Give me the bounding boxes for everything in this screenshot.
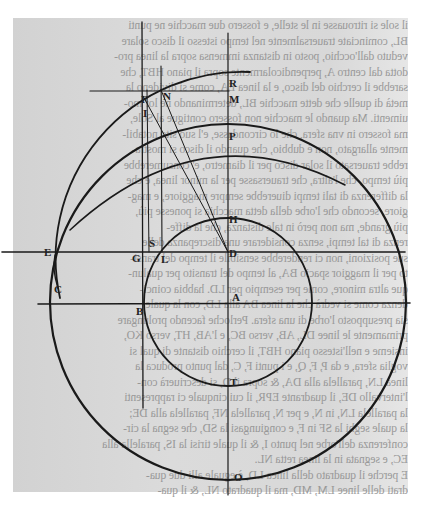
line-nl xyxy=(161,66,162,252)
point-label-f: F xyxy=(141,93,148,105)
line-ca xyxy=(38,303,410,304)
point-label-d: D xyxy=(229,247,237,259)
point-label-h: H xyxy=(229,213,238,225)
point-label-b: B xyxy=(136,305,144,317)
point-label-s: S xyxy=(149,237,155,249)
point-label-a: A xyxy=(232,291,240,303)
line-nd xyxy=(161,90,228,252)
point-label-e: E xyxy=(44,246,51,258)
geometric-diagram: RFNMIPHEDSGLCABTO xyxy=(0,0,422,510)
point-label-i: I xyxy=(143,107,147,119)
point-label-t: T xyxy=(230,376,238,388)
point-label-n: N xyxy=(163,90,171,102)
point-label-c: C xyxy=(54,283,62,295)
line-fs xyxy=(147,90,149,252)
point-label-r: R xyxy=(229,77,238,89)
point-label-p: P xyxy=(229,130,236,142)
point-label-o: O xyxy=(234,471,243,483)
point-label-l: L xyxy=(161,253,168,265)
point-label-g: G xyxy=(132,252,141,264)
point-label-m: M xyxy=(229,93,240,105)
line-b xyxy=(142,22,143,408)
